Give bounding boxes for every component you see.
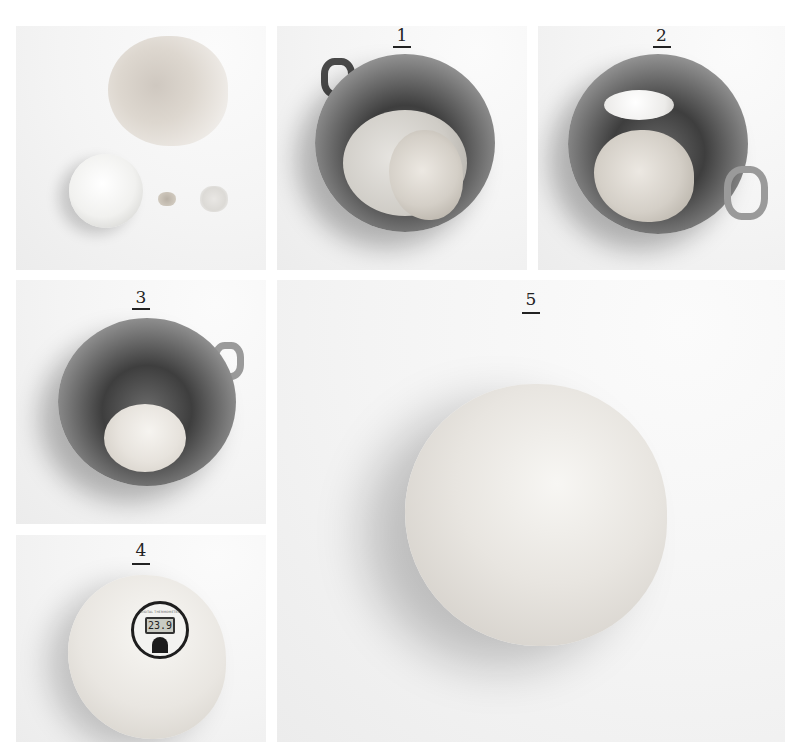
photo-step-3: 3 <box>16 280 266 524</box>
thermometer-reading: 23.9 <box>145 617 175 634</box>
step-number: 4 <box>16 541 266 559</box>
dough-hook <box>604 90 674 120</box>
step-underline <box>522 312 540 314</box>
salt-pinch <box>200 186 228 212</box>
dough-ball <box>405 384 667 646</box>
step-underline <box>393 46 411 48</box>
step-number: 2 <box>538 26 785 44</box>
digital-thermometer: DIGITAL THERMOMETER 23.9 <box>131 601 189 659</box>
water-dish <box>69 154 143 228</box>
step-number: 1 <box>277 26 527 44</box>
step-number: 3 <box>16 288 266 306</box>
flour-pile <box>108 36 228 146</box>
dough-ball <box>104 404 186 472</box>
thermometer-brand: DIGITAL THERMOMETER <box>134 610 186 614</box>
step-underline <box>132 563 150 565</box>
thermometer-probe-knob <box>152 637 168 653</box>
step-number: 5 <box>277 290 785 308</box>
photo-ingredients <box>16 26 266 270</box>
step-underline <box>653 46 671 48</box>
photo-step-4: 4 DIGITAL THERMOMETER 23.9 <box>16 535 266 742</box>
photo-step-1: 1 <box>277 26 527 270</box>
photo-step-5: 5 <box>277 280 785 742</box>
photo-step-2: 2 <box>538 26 785 270</box>
step-underline <box>132 308 150 310</box>
bowl-handle <box>724 166 768 220</box>
yeast-pinch <box>158 192 176 206</box>
